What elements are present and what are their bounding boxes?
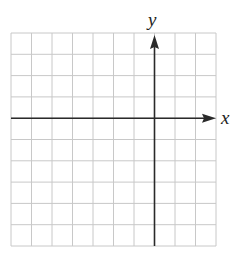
x-axis-arrow-icon bbox=[202, 114, 216, 123]
grid-lines bbox=[11, 33, 216, 246]
y-axis bbox=[150, 35, 159, 246]
coordinate-grid: x y bbox=[0, 0, 233, 257]
x-axis-label: x bbox=[220, 107, 230, 128]
y-axis-arrow-icon bbox=[150, 35, 159, 49]
y-axis-label: y bbox=[146, 9, 157, 30]
